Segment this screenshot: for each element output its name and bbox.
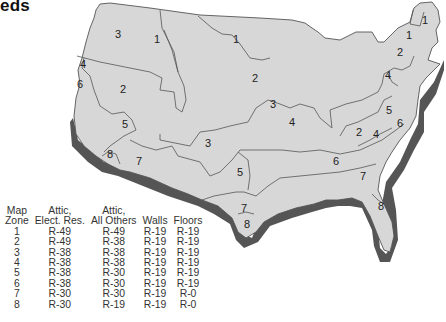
cell-zone: 8 [2,300,32,310]
zone-label: 5 [122,118,128,130]
zone-label: 8 [244,218,250,230]
zone-label: 8 [378,200,384,212]
zone-label: 4 [385,69,391,81]
zone-label: 2 [397,46,403,58]
zone-label: 4 [289,116,295,128]
zone-label: 3 [270,98,276,110]
cell-walls: R-19 [140,300,171,310]
header-attic-others: Attic,All Others [88,206,140,227]
header-attic-elect: Attic,Elect. Res. [32,206,88,227]
zone-label: 7 [241,202,247,214]
r-value-table: MapZone Attic,Elect. Res. Attic,All Othe… [2,206,205,310]
zone-label: 1 [406,29,412,41]
header-floors: Floors [171,206,206,227]
zone-label: 6 [77,78,83,90]
table-header-row: MapZone Attic,Elect. Res. Attic,All Othe… [2,206,205,227]
header-map-zone: MapZone [2,206,32,227]
zone-label: 3 [115,28,121,40]
header-walls: Walls [140,206,171,227]
cell-attic-others: R-19 [88,300,140,310]
zone-label: 2 [120,83,126,95]
zone-label: 8 [107,148,113,160]
zone-label: 4 [80,58,86,70]
zone-label: 1 [233,33,239,45]
zone-label: 5 [386,104,392,116]
zone-label: 6 [333,155,339,167]
table-row: 8R-30R-19R-19R-0 [2,300,205,310]
cell-attic-elect: R-30 [32,300,88,310]
cell-floors: R-0 [171,300,206,310]
zone-label: 1 [422,14,428,26]
zone-label: 6 [397,117,403,129]
zone-label: 5 [237,166,243,178]
zone-label: 4 [373,128,379,140]
zone-label: 3 [205,137,211,149]
zone-label: 7 [360,170,366,182]
zone-label: 2 [356,126,362,138]
zone-label: 7 [136,155,142,167]
zone-label: 2 [252,72,258,84]
zone-label: 1 [154,33,160,45]
